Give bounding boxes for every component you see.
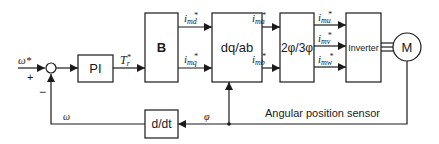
torque-ref-label: Tr* — [120, 54, 131, 68]
phi-label: φ — [204, 112, 210, 122]
omega-label: ω — [63, 112, 70, 122]
plus-sign: + — [27, 72, 33, 83]
motor-label: M — [393, 33, 421, 61]
i-mb-label: imb* — [252, 53, 266, 67]
phase-label: 2φ/3φ — [280, 13, 314, 82]
minus-sign: − — [39, 86, 46, 98]
inverter-label: Inverter — [346, 13, 381, 82]
i-ma-label: ima* — [252, 12, 266, 26]
speed-ref-label: ω* — [18, 55, 31, 66]
i-mq-label: imq* — [184, 53, 198, 67]
i-md-label: imd* — [184, 12, 198, 26]
summing-junction — [46, 63, 56, 73]
sensor-label: Angular position sensor — [265, 108, 380, 119]
i-mw-label: imw* — [318, 53, 333, 67]
ddt-label: d/dt — [145, 110, 178, 138]
junction-dot — [227, 122, 231, 126]
pi-label: PI — [78, 55, 113, 82]
i-mv-label: imv* — [318, 32, 331, 46]
i-mu-label: imu* — [318, 11, 332, 25]
b-label: B — [145, 13, 178, 82]
